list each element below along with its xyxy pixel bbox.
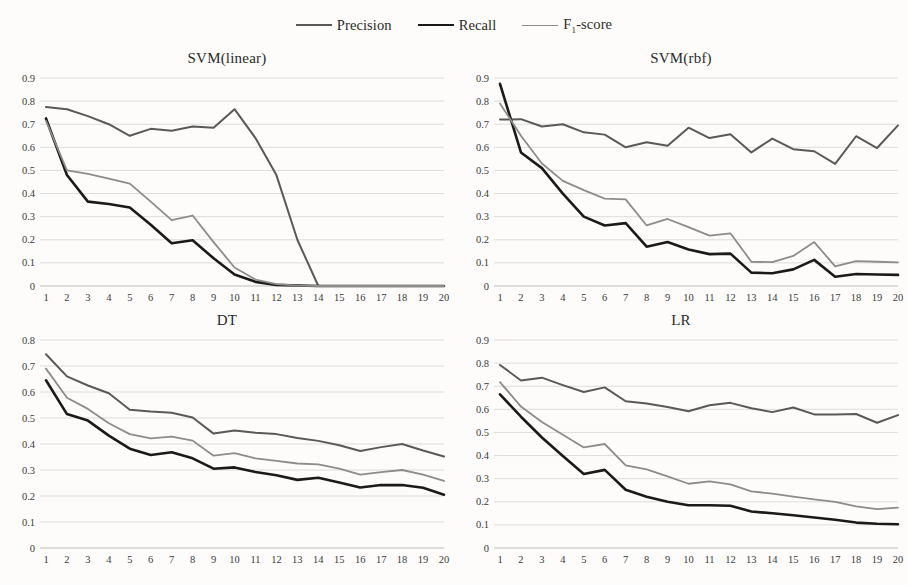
y-axis-tick-label: 0.4	[476, 188, 490, 199]
x-axis-tick-label: 18	[397, 292, 408, 303]
x-axis-tick-label: 10	[229, 292, 240, 303]
x-axis-tick-label: 12	[271, 292, 282, 303]
x-axis-tick-label: 5	[581, 554, 586, 565]
legend-item-precision: Precision	[296, 17, 392, 34]
legend-label-f1: F1-score	[563, 16, 612, 35]
legend-line-swatch-recall	[418, 24, 454, 26]
x-axis-tick-label: 8	[190, 292, 195, 303]
x-axis-tick-label: 20	[893, 554, 904, 565]
y-axis-tick-label: 0.1	[476, 519, 489, 530]
chart-plot-svm-rbf: 00.10.20.30.40.50.60.70.80.9123456789101…	[454, 70, 908, 316]
y-axis-tick-label: 0.4	[476, 450, 490, 461]
x-axis-tick-label: 14	[767, 292, 778, 303]
x-axis-tick-label: 14	[313, 292, 324, 303]
x-axis-tick-label: 12	[725, 292, 736, 303]
chart-title-svm-linear: SVM(linear)	[0, 50, 454, 67]
x-axis-tick-label: 18	[851, 292, 862, 303]
x-axis-tick-label: 13	[292, 554, 303, 565]
x-axis-tick-label: 1	[497, 554, 502, 565]
x-axis-tick-label: 11	[704, 292, 714, 303]
y-axis-tick-label: 0.2	[22, 491, 35, 502]
y-axis-tick-label: 0.3	[476, 473, 489, 484]
x-axis-tick-label: 2	[64, 292, 69, 303]
x-axis-tick-label: 19	[872, 292, 883, 303]
y-axis-tick-label: 0.8	[476, 358, 489, 369]
chart-plot-lr: 00.10.20.30.40.50.60.70.80.9123456789101…	[454, 332, 908, 578]
chart-plot-svm-linear: 00.10.20.30.40.50.60.70.80.9123456789101…	[0, 70, 454, 316]
x-axis-tick-label: 19	[418, 554, 429, 565]
y-axis-tick-label: 0.7	[22, 361, 35, 372]
y-axis-tick-label: 0.7	[476, 119, 489, 130]
x-axis-tick-label: 5	[127, 554, 132, 565]
figure-page: PrecisionRecallF1-score SVM(linear)00.10…	[0, 0, 908, 585]
x-axis-tick-label: 16	[355, 292, 366, 303]
y-axis-tick-label: 0.5	[22, 413, 35, 424]
y-axis-tick-label: 0.5	[22, 165, 35, 176]
x-axis-tick-label: 10	[683, 554, 694, 565]
chart-series-precision	[46, 354, 444, 456]
x-axis-tick-label: 13	[292, 292, 303, 303]
x-axis-tick-label: 1	[43, 292, 48, 303]
x-axis-tick-label: 6	[602, 292, 607, 303]
x-axis-tick-label: 20	[893, 292, 904, 303]
x-axis-tick-label: 16	[355, 554, 366, 565]
x-axis-tick-label: 3	[85, 554, 90, 565]
chart-series-recall	[500, 84, 898, 277]
x-axis-tick-label: 9	[211, 554, 216, 565]
y-axis-tick-label: 0.3	[476, 211, 489, 222]
x-axis-tick-label: 17	[376, 554, 387, 565]
y-axis-tick-label: 0.6	[476, 142, 489, 153]
y-axis-tick-label: 0.8	[22, 96, 35, 107]
y-axis-tick-label: 0.8	[476, 96, 489, 107]
x-axis-tick-label: 2	[518, 292, 523, 303]
x-axis-tick-label: 8	[644, 554, 649, 565]
x-axis-tick-label: 4	[560, 292, 566, 303]
y-axis-tick-label: 0.4	[22, 439, 36, 450]
x-axis-tick-label: 14	[767, 554, 778, 565]
chart-title-dt: DT	[0, 312, 454, 329]
y-axis-tick-label: 0.3	[22, 465, 35, 476]
x-axis-tick-label: 19	[872, 554, 883, 565]
figure-legend: PrecisionRecallF1-score	[0, 16, 908, 35]
y-axis-tick-label: 0.3	[22, 211, 35, 222]
y-axis-tick-label: 0.9	[22, 73, 35, 84]
chart-series-f1-score	[500, 382, 898, 509]
y-axis-tick-label: 0.2	[476, 234, 489, 245]
chart-panel-svm-rbf: SVM(rbf)00.10.20.30.40.50.60.70.80.91234…	[454, 48, 908, 316]
x-axis-tick-label: 6	[602, 554, 607, 565]
x-axis-tick-label: 15	[788, 292, 799, 303]
chart-panel-dt: DT00.10.20.30.40.50.60.70.81234567891011…	[0, 310, 454, 578]
x-axis-tick-label: 9	[665, 554, 670, 565]
chart-series-recall	[46, 118, 444, 286]
x-axis-tick-label: 20	[439, 292, 450, 303]
chart-series-f1-score	[500, 103, 898, 266]
x-axis-tick-label: 19	[418, 292, 429, 303]
x-axis-tick-label: 8	[644, 292, 649, 303]
y-axis-tick-label: 0.1	[22, 517, 35, 528]
x-axis-tick-label: 18	[851, 554, 862, 565]
legend-label-precision: Precision	[337, 17, 392, 34]
x-axis-tick-label: 15	[788, 554, 799, 565]
x-axis-tick-label: 5	[581, 292, 586, 303]
chart-series-f1-score	[46, 369, 444, 481]
x-axis-tick-label: 9	[665, 292, 670, 303]
chart-title-lr: LR	[454, 312, 908, 329]
x-axis-tick-label: 3	[539, 554, 544, 565]
y-axis-tick-label: 0.5	[476, 165, 489, 176]
x-axis-tick-label: 15	[334, 292, 345, 303]
x-axis-tick-label: 1	[497, 292, 502, 303]
chart-title-svm-rbf: SVM(rbf)	[454, 50, 908, 67]
y-axis-tick-label: 0	[484, 543, 489, 554]
y-axis-tick-label: 0.6	[476, 404, 489, 415]
y-axis-tick-label: 0.1	[476, 257, 489, 268]
y-axis-tick-label: 0.9	[476, 335, 489, 346]
x-axis-tick-label: 9	[211, 292, 216, 303]
y-axis-tick-label: 0.2	[476, 496, 489, 507]
chart-series-precision	[500, 365, 898, 423]
x-axis-tick-label: 16	[809, 292, 820, 303]
x-axis-tick-label: 15	[334, 554, 345, 565]
y-axis-tick-label: 0.1	[22, 257, 35, 268]
x-axis-tick-label: 8	[190, 554, 195, 565]
y-axis-tick-label: 0.7	[22, 119, 35, 130]
x-axis-tick-label: 11	[250, 292, 260, 303]
